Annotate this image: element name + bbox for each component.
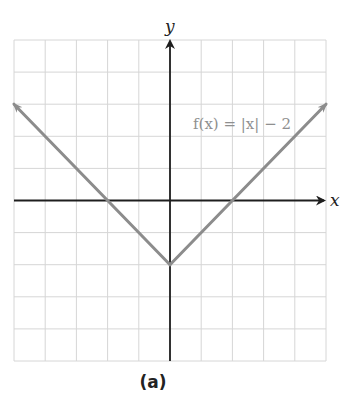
curve-branch xyxy=(14,104,170,265)
figure-caption: (a) xyxy=(0,372,306,392)
graph-plot: x y f(x) = |x| − 2 xyxy=(0,0,342,408)
x-axis-label: x xyxy=(330,190,340,210)
axes xyxy=(14,41,324,361)
y-axis-label: y xyxy=(164,16,175,36)
function-label: f(x) = |x| − 2 xyxy=(193,115,291,133)
